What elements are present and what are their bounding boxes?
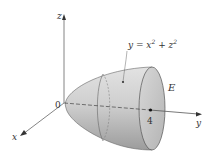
tick-point-4 bbox=[149, 108, 152, 111]
x-axis-label: x bbox=[12, 132, 17, 142]
region-label: E bbox=[167, 82, 176, 93]
z-axis bbox=[62, 14, 66, 103]
equation-exp2: 2 bbox=[172, 38, 177, 45]
z-axis-label: z bbox=[56, 11, 62, 21]
diagram-canvas: z 0 x y 4 E y = x2 + z2 bbox=[0, 0, 214, 157]
y-axis-label: y bbox=[195, 118, 202, 128]
z-arrow-icon bbox=[62, 14, 66, 20]
y-arrow-icon bbox=[196, 112, 202, 117]
origin-label: 0 bbox=[55, 100, 61, 110]
cap-ellipse bbox=[139, 67, 165, 150]
paraboloid-figure: z 0 x y 4 E y = x2 + z2 bbox=[0, 0, 214, 157]
equation-mid: + z bbox=[155, 40, 173, 50]
leader-dot bbox=[122, 81, 124, 83]
tick-label-4: 4 bbox=[147, 116, 153, 126]
equation-lhs: y = x bbox=[127, 40, 151, 50]
surface-equation: y = x2 + z2 bbox=[127, 38, 177, 50]
x-arrow-icon bbox=[20, 130, 27, 136]
